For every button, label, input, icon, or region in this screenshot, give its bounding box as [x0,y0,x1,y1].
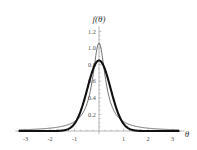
x-tick-label: 2 [146,135,149,142]
chart-figure: -3-2-1123 0.20.40.60.81.01.2 f(θ) θ [0,0,197,150]
plot-area: -3-2-1123 0.20.40.60.81.01.2 f(θ) θ [0,0,197,150]
x-tick-label: 3 [171,135,174,142]
x-tick-label: -3 [23,135,28,142]
y-axis-title: f(θ) [93,14,106,24]
x-tick-label: -2 [47,135,52,142]
y-tick-label: 0.2 [88,111,96,118]
y-tick-label: 1.2 [88,28,96,35]
y-tick-label: 1.0 [88,44,96,51]
x-tick-label: -1 [72,135,77,142]
x-axis-title: θ [185,129,190,139]
axes-group [15,26,184,134]
x-tick-label: 1 [122,135,125,142]
